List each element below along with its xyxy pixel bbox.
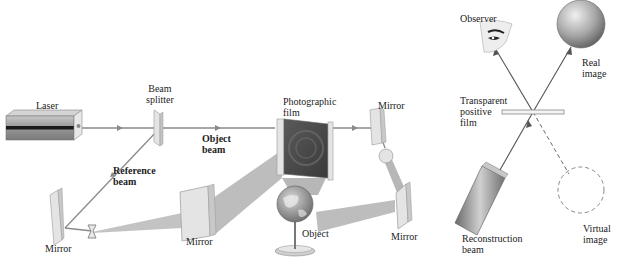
mirror-top-right bbox=[370, 108, 386, 145]
reference-beam-label: Reference beam bbox=[113, 165, 156, 187]
real-image-label-line1: Real bbox=[582, 57, 606, 68]
observer-label: Observer bbox=[460, 13, 497, 24]
beam-splitter-label-line2: splitter bbox=[146, 94, 174, 105]
transparent-film-label-line3: film bbox=[460, 117, 507, 128]
real-image-label: Real image bbox=[582, 57, 606, 79]
beam-fans bbox=[92, 150, 408, 236]
object-beam-label-line2: beam bbox=[202, 144, 231, 155]
transparent-film-label-line1: Transparent bbox=[460, 95, 507, 106]
photographic-film-label-line2: film bbox=[283, 107, 336, 118]
photographic-film bbox=[277, 119, 333, 180]
photographic-film-label: Photographic film bbox=[283, 96, 336, 118]
object-label: Object bbox=[302, 228, 329, 239]
reconstruction-beam-label-line1: Reconstruction bbox=[462, 233, 523, 244]
beam-splitter bbox=[154, 110, 163, 146]
mirror-bottom-right-label: Mirror bbox=[391, 231, 418, 242]
mirror-center bbox=[180, 184, 216, 241]
beam-splitter-label: Beam splitter bbox=[146, 83, 174, 105]
laser-label: Laser bbox=[36, 100, 58, 111]
object-globe bbox=[275, 186, 315, 256]
real-image-label-line2: image bbox=[582, 68, 606, 79]
reference-beam-label-line2: beam bbox=[113, 176, 156, 187]
laser bbox=[6, 110, 82, 140]
reconstruction-beam-source bbox=[455, 162, 508, 235]
virtual-image-circle bbox=[558, 167, 604, 213]
virtual-image-label: Virtual image bbox=[583, 223, 611, 245]
reference-beam-label-line1: Reference bbox=[113, 165, 156, 176]
reconstruction-beam-label: Reconstruction beam bbox=[462, 233, 523, 255]
virtual-ray bbox=[533, 112, 569, 174]
mirror-center-label: Mirror bbox=[186, 236, 213, 247]
observer-eye bbox=[480, 20, 512, 52]
transparent-film bbox=[502, 110, 564, 114]
transparent-film-label: Transparent positive film bbox=[460, 95, 507, 128]
virtual-image-label-line2: image bbox=[583, 234, 611, 245]
mirror-left-label: Mirror bbox=[45, 243, 72, 254]
holography-diagram: Laser Beam splitter Object beam Referenc… bbox=[0, 0, 620, 271]
virtual-image-label-line1: Virtual bbox=[583, 223, 611, 234]
beam-splitter-label-line1: Beam bbox=[146, 83, 174, 94]
photographic-film-label-line1: Photographic bbox=[283, 96, 336, 107]
reconstruction-beam-label-line2: beam bbox=[462, 244, 523, 255]
mirror-top-right-label: Mirror bbox=[378, 100, 405, 111]
transparent-film-label-line2: positive bbox=[460, 106, 507, 117]
small-lens bbox=[379, 149, 393, 163]
mirror-left bbox=[50, 188, 64, 245]
real-image-sphere bbox=[557, 0, 605, 48]
object-beam-label-line1: Object bbox=[202, 133, 231, 144]
object-beam-label: Object beam bbox=[202, 133, 231, 155]
